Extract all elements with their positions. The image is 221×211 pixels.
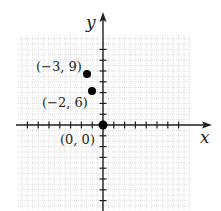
x-axis-label: x [200,127,210,147]
point-neg3-9 [83,70,91,78]
y-axis-label: y [85,12,96,32]
label-point-neg3-9: (−3, 9) [36,59,82,74]
label-point-origin: (0, 0) [60,132,95,147]
point-neg2-6 [88,87,96,95]
point-origin [99,121,108,130]
coordinate-plane: (−3, 9) (−2, 6) (0, 0) x y [0,0,221,211]
label-point-neg2-6: (−2, 6) [42,95,88,110]
